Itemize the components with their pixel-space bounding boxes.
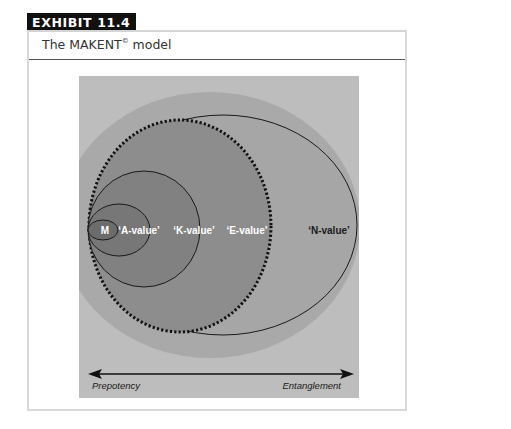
- caption-divider: [29, 59, 405, 60]
- exhibit-caption: The MAKENT© model: [42, 37, 172, 52]
- caption-title: The MAKENT: [42, 37, 122, 52]
- n-value-label: ‘N-value’: [308, 225, 350, 236]
- caption-suffix: model: [129, 37, 172, 52]
- a-value-label: ‘A-value’: [118, 225, 160, 236]
- entanglement-label: Entanglement: [282, 380, 341, 391]
- makent-diagram: M ‘A-value’ ‘K-value’ ‘E-value’ ‘N-value…: [79, 76, 359, 398]
- copyright-mark: ©: [122, 37, 129, 45]
- m-label: M: [101, 225, 109, 236]
- e-value-label: ‘E-value’: [226, 225, 267, 236]
- k-value-label: ‘K-value’: [173, 225, 215, 236]
- prepotency-label: Prepotency: [92, 380, 141, 391]
